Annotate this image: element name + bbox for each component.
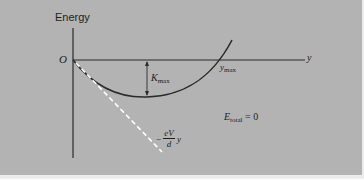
origin-label: O — [59, 53, 67, 65]
potential-variable: y — [177, 134, 181, 144]
ymax-subscript: max — [224, 66, 236, 74]
kmax-arrow — [145, 61, 149, 96]
potential-energy-line — [76, 63, 162, 152]
etotal-subscript: total — [230, 116, 242, 124]
potential-fraction: eV d — [163, 128, 175, 149]
ymax-label: ymax — [220, 62, 236, 74]
potential-energy-label: − eV d y — [156, 128, 181, 149]
kmax-label: Kmax — [151, 72, 170, 85]
kmax-subscript: max — [158, 77, 170, 85]
potential-numerator: eV — [163, 128, 175, 139]
y-axis-label: y — [307, 52, 311, 63]
total-energy-label: Etotal = 0 — [224, 111, 258, 124]
kinetic-energy-curve — [73, 40, 232, 97]
etotal-value: = 0 — [245, 111, 258, 122]
energy-axis-label: Energy — [55, 11, 90, 23]
kmax-symbol: K — [151, 72, 158, 83]
potential-denominator: d — [163, 139, 175, 149]
potential-sign: − — [156, 134, 161, 144]
diagram-panel: Energy O y Kmax ymax Etotal = 0 − eV d y — [0, 0, 364, 179]
